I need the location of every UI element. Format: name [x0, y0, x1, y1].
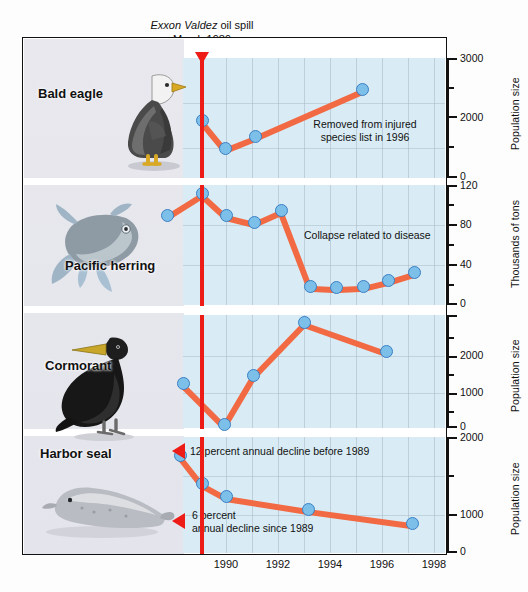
y-tick-label-herring-120: 120: [460, 180, 478, 191]
species-label-pacific-herring: Pacific herring: [65, 258, 155, 273]
y-axis-pacific-herring: [447, 185, 456, 305]
y-tick-label-herring-40: 40: [460, 259, 472, 270]
x-tick-label-1994: 1994: [310, 558, 350, 570]
x-tick-label-1990: 1990: [206, 558, 246, 570]
y-axis-title-herring: Thousands of tons: [509, 200, 521, 288]
y-tick-label-herring-0: 0: [460, 298, 466, 309]
annotation-seal-12pct: 12 percent annual decline before 1989: [190, 445, 420, 458]
annotation-seal-6pct: 6 percent annual decline since 1989: [192, 509, 377, 535]
annotation-herring: Collapse related to disease: [304, 229, 449, 242]
data-point: [330, 281, 343, 294]
spill-marker-line: [200, 58, 203, 178]
data-point: [406, 517, 419, 530]
species-label-cormorant: Cormorant: [45, 358, 111, 373]
species-label-bald-eagle: Bald eagle: [38, 86, 103, 101]
annotation-eagle-line2: species list in 1996: [300, 131, 430, 144]
x-tick-label-1996: 1996: [362, 558, 402, 570]
data-point: [220, 209, 233, 222]
y-tick-label-seal-0: 0: [460, 546, 466, 557]
callout-arrow-12-percent: [172, 443, 185, 459]
data-point: [177, 377, 190, 390]
annotation-eagle: Removed from injured species list in 199…: [300, 118, 430, 144]
infographic-root: Exxon Valdez oil spill March 1989: [0, 0, 528, 592]
y-tick-label-cormorant-0: 0: [460, 421, 466, 432]
data-point: [218, 418, 231, 431]
x-tick-label-1992: 1992: [258, 558, 298, 570]
data-point: [247, 369, 260, 382]
harbor-seal-illustration: [26, 470, 176, 540]
cormorant-illustration: [48, 322, 158, 442]
y-tick-label-seal-2000: 2000: [460, 432, 483, 443]
spill-marker-line: [200, 437, 203, 554]
band-separator: [24, 178, 446, 185]
data-point: [249, 130, 262, 143]
data-point: [298, 316, 311, 329]
y-axis-cormorant: [447, 315, 456, 428]
y-axis-harbor-seal: [447, 437, 456, 553]
y-tick-label-eagle-2000: 2000: [460, 112, 483, 123]
y-axis-title-cormorant: Population size: [509, 339, 521, 412]
x-tick-label-1998: 1998: [414, 558, 454, 570]
bald-eagle-illustration: [118, 62, 190, 172]
species-label-harbor-seal: Harbor seal: [40, 446, 112, 461]
y-tick-label-cormorant-2000: 2000: [460, 350, 483, 361]
data-point: [380, 345, 393, 358]
data-point: [275, 204, 288, 217]
ship-name: Exxon Valdez: [151, 19, 218, 31]
pacific-herring-illustration: [30, 188, 150, 300]
data-point: [357, 280, 370, 293]
y-tick-label-seal-1000: 1000: [460, 509, 483, 520]
data-point: [220, 490, 233, 503]
y-axis-title-eagle: Population size: [509, 77, 521, 150]
data-point: [304, 280, 317, 293]
spill-caption-line1: Exxon Valdez oil spill: [112, 19, 292, 33]
annotation-eagle-line1: Removed from injured: [300, 118, 430, 131]
y-tick-label-cormorant-1000: 1000: [460, 387, 483, 398]
panel-cormorant: [183, 315, 445, 428]
y-tick-label-herring-80: 80: [460, 219, 472, 230]
y-axis-title-seal: Population size: [509, 462, 521, 535]
data-point: [248, 216, 261, 229]
data-point: [219, 142, 232, 155]
callout-arrow-6-percent: [172, 513, 185, 529]
data-point: [161, 209, 174, 222]
data-point: [382, 274, 395, 287]
spill-marker-line: [200, 315, 203, 429]
annotation-seal-6pct-line1: 6 percent: [192, 509, 377, 522]
data-point: [408, 266, 421, 279]
y-tick-label-eagle-3000: 3000: [460, 53, 483, 64]
annotation-seal-6pct-line2: annual decline since 1989: [192, 522, 377, 535]
band-separator: [24, 306, 446, 313]
y-axis-bald-eagle: [447, 58, 456, 178]
spill-marker-line: [200, 185, 203, 306]
data-point: [356, 83, 369, 96]
